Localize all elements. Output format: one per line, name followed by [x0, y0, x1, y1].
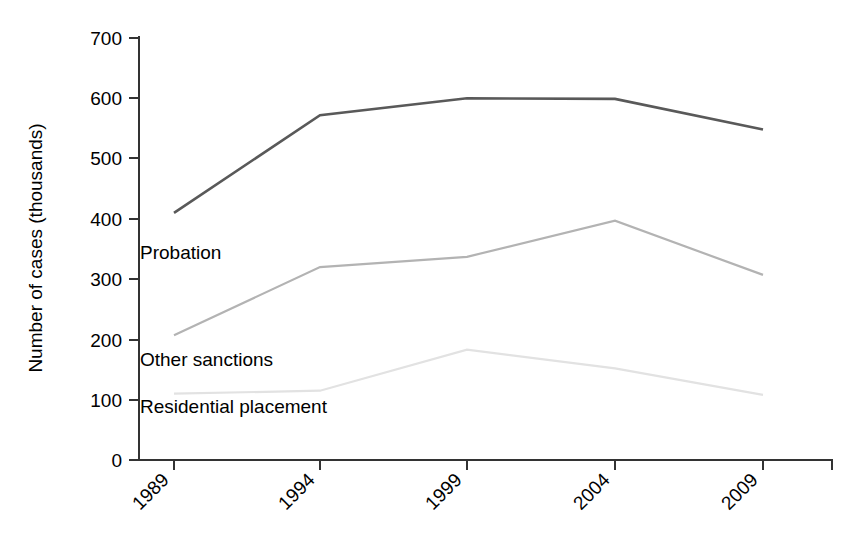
y-axis-label: Number of cases (thousands): [25, 123, 46, 372]
x-tick-marks: [174, 460, 832, 470]
series-line-other-sanctions: [174, 221, 763, 336]
series-label-residential-placement: Residential placement: [140, 396, 328, 417]
y-tick-label-700: 700: [90, 28, 122, 49]
x-tick-label-1994: 1994: [274, 469, 319, 514]
y-tick-marks: [129, 38, 139, 460]
y-tick-label-600: 600: [90, 88, 122, 109]
series-line-probation: [174, 98, 763, 213]
y-tick-label-200: 200: [90, 330, 122, 351]
y-tick-labels: 700 600 500 400 300 200 100 0: [90, 28, 122, 471]
series-label-probation: Probation: [140, 242, 221, 263]
y-tick-label-100: 100: [90, 390, 122, 411]
chart-canvas: Number of cases (thousands) 700 600 500 …: [0, 0, 855, 541]
x-tick-labels: 1989 1994 1999 2004 2009: [128, 469, 762, 514]
y-tick-label-300: 300: [90, 269, 122, 290]
y-tick-label-400: 400: [90, 209, 122, 230]
x-tick-label-2009: 2009: [717, 469, 762, 514]
series-label-other-sanctions: Other sanctions: [140, 349, 273, 370]
line-chart: Number of cases (thousands) 700 600 500 …: [0, 0, 855, 541]
y-tick-label-500: 500: [90, 148, 122, 169]
x-tick-label-2004: 2004: [569, 469, 614, 514]
x-tick-label-1999: 1999: [421, 469, 466, 514]
y-tick-label-0: 0: [111, 450, 122, 471]
x-tick-label-1989: 1989: [128, 469, 173, 514]
